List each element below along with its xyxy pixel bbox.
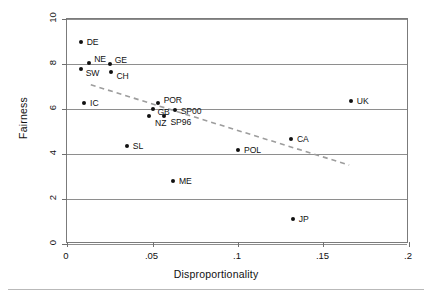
y-axis-tick — [62, 19, 67, 20]
x-axis-tick-label: .05 — [137, 250, 167, 261]
y-axis-title: Fairness — [17, 58, 29, 178]
trend-line — [67, 19, 407, 242]
plot-area: DENESWGECHICPORGBSP00SP96NZUKCAPOLSLMEJP — [66, 18, 408, 243]
y-axis-tick — [62, 154, 67, 155]
data-point — [108, 62, 112, 66]
gridline — [67, 199, 407, 200]
data-point-label: CA — [297, 134, 309, 144]
data-point-label: NE — [94, 54, 106, 64]
y-axis-tick-label: 8 — [47, 53, 58, 73]
y-axis-tick-label: 4 — [47, 143, 58, 163]
footer-divider — [8, 289, 424, 290]
data-point-label: SP96 — [170, 117, 191, 127]
data-point-label: UK — [357, 96, 369, 106]
data-point — [171, 179, 175, 183]
x-axis-tick-label: 0 — [51, 250, 81, 261]
y-axis-tick — [62, 109, 67, 110]
data-point — [125, 144, 129, 148]
x-axis-tick-label: .2 — [393, 250, 423, 261]
data-point — [289, 137, 293, 141]
data-point — [87, 61, 91, 65]
x-axis-tick-label: .1 — [222, 250, 252, 261]
data-point — [79, 40, 83, 44]
data-point-label: POR — [164, 95, 182, 105]
gridline — [67, 154, 407, 155]
data-point — [151, 107, 155, 111]
data-point — [291, 217, 295, 221]
x-axis-tick — [238, 242, 239, 247]
data-point-label: POL — [244, 145, 261, 155]
y-axis-tick-label: 10 — [47, 8, 58, 28]
data-point — [236, 148, 240, 152]
gridline — [67, 109, 407, 110]
data-point — [79, 67, 83, 71]
x-axis-tick — [409, 242, 410, 247]
y-axis-tick — [62, 64, 67, 65]
scatter-plot-figure: Fairness Disproportionality DENESWGECHIC… — [0, 0, 432, 297]
data-point-label: SL — [133, 141, 143, 151]
data-point-label: SP00 — [181, 106, 202, 116]
data-point — [109, 70, 113, 74]
data-point — [156, 101, 160, 105]
data-point-label: DE — [87, 37, 99, 47]
x-axis-tick — [153, 242, 154, 247]
data-point-label: CH — [116, 71, 128, 81]
x-axis-tick-label: .15 — [308, 250, 338, 261]
data-point — [173, 108, 177, 112]
data-point-label: ME — [179, 176, 192, 186]
x-axis-title: Disproportionality — [0, 268, 432, 280]
data-point — [147, 114, 151, 118]
data-point-label: IC — [90, 98, 98, 108]
data-point — [349, 99, 353, 103]
data-point-label: SW — [86, 68, 100, 78]
gridline — [67, 19, 407, 20]
gridline — [67, 244, 407, 245]
x-axis-tick — [67, 242, 68, 247]
y-axis-tick — [62, 199, 67, 200]
y-axis-tick-label: 6 — [47, 98, 58, 118]
y-axis-tick-label: 2 — [47, 188, 58, 208]
x-axis-tick — [323, 242, 324, 247]
data-point-label: GE — [115, 55, 127, 65]
data-point-label: NZ — [155, 118, 166, 128]
data-point-label: JP — [299, 214, 309, 224]
data-point — [82, 101, 86, 105]
